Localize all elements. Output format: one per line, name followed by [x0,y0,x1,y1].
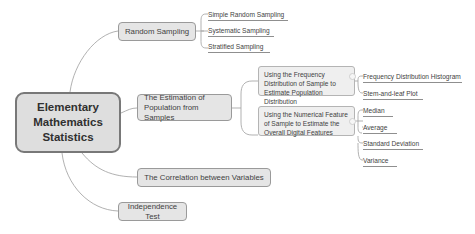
leaf-systematic-sampling[interactable]: Systematic Sampling [208,26,274,37]
subnode-frequency-distribution-method[interactable]: Using the Frequency Distribution of Samp… [258,66,355,96]
branch-correlation-between-variables[interactable]: The Correlation between Variables [137,168,271,187]
root-label-line3: Statistics [33,130,103,145]
branch-estimation-of-population[interactable]: The Estimation of Population from Sample… [137,94,232,121]
subnode-numerical-feature-method-label: Using the Numerical Feature of Sample to… [264,111,348,136]
bracket-numerical-lower [358,136,362,143]
leaf-variance[interactable]: Variance [363,156,397,167]
leaf-average[interactable]: Average [363,123,397,134]
bracket-numerical-bottom [358,143,362,160]
collapse-dot-frequency-icon[interactable] [349,73,356,80]
branch-estimation-of-population-label: The Estimation of Population from Sample… [144,93,226,123]
root-label-line1: Elementary [33,100,103,115]
bracket-estimation [241,81,252,135]
leaf-median[interactable]: Median [363,106,393,117]
branch-correlation-between-variables-label: The Correlation between Variables [144,173,263,183]
edge-root-estimation [121,108,137,113]
edge-root-independence [62,153,118,211]
root-node[interactable]: Elementary Mathematics Statistics [15,92,121,153]
bracket-random-sampling [201,14,206,48]
bracket-frequency [358,76,362,93]
branch-random-sampling[interactable]: Random Sampling [118,22,196,41]
subnode-numerical-feature-method[interactable]: Using the Numerical Feature of Sample to… [258,106,355,136]
leaf-stem-and-leaf-plot[interactable]: Stem-and-leaf Plot [363,89,423,100]
edge-root-random-sampling [70,31,118,92]
leaf-frequency-distribution-histogram[interactable]: Frequency Distribution Histogram [363,72,462,83]
root-label-line2: Mathematics [33,115,103,130]
branch-independence-test-label: Independence Test [124,202,181,222]
branch-independence-test[interactable]: Independence Test [118,202,187,221]
subnode-frequency-distribution-method-label: Using the Frequency Distribution of Samp… [264,71,336,105]
mindmap-canvas: Elementary Mathematics Statistics Random… [0,0,475,234]
leaf-simple-random-sampling[interactable]: Simple Random Sampling [208,10,288,21]
collapse-dot-numerical-icon[interactable] [349,118,356,125]
leaf-standard-deviation[interactable]: Standard Deviation [363,139,423,150]
edge-root-correlation [82,153,137,177]
branch-random-sampling-label: Random Sampling [125,27,189,37]
bracket-numerical-upper [358,110,362,133]
leaf-stratified-sampling[interactable]: Stratified Sampling [208,42,270,53]
